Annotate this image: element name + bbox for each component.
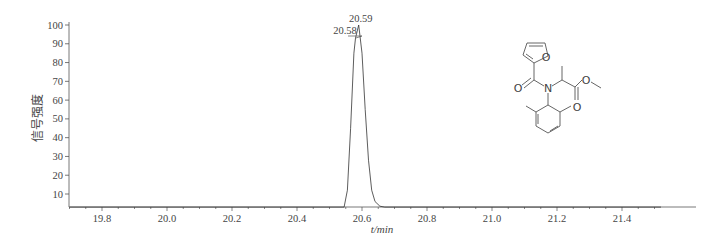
y-tick-label: 60 [53,95,64,106]
x-axis-label: t/min [371,223,394,235]
y-tick-label: 80 [53,57,64,68]
x-tick-label: 21.0 [483,213,501,224]
peak-label-20-59: 20.59 [349,13,373,24]
y-tick-label: 100 [47,20,63,31]
x-tick-label: 21.2 [548,213,566,224]
x-axis-ticks: 19.820.020.220.420.620.821.021.221.4 [70,207,655,224]
axes [69,22,696,207]
y-tick-label: 70 [53,76,64,87]
x-tick-label: 20.2 [223,213,241,224]
y-tick-label: 50 [53,113,64,124]
chemical-structure [522,43,601,133]
y-axis-label: 信号强度 [30,94,45,142]
atom-o-ester: O [582,74,591,87]
atom-o-furan: O [542,51,551,64]
x-tick-label: 20.0 [158,213,176,224]
y-axis-ticks: 102030405060708090100 [47,20,69,200]
atom-n: N [544,82,552,95]
y-tick-label: 10 [53,189,64,200]
chromatogram-trace [70,25,662,207]
y-tick-label: 90 [53,38,64,49]
y-tick-label: 20 [53,170,64,181]
chromatogram-chart: 102030405060708090100 19.820.020.220.420… [0,0,701,242]
atom-o-carbonyl: O [514,82,523,95]
y-tick-label: 40 [53,132,64,143]
atom-o-ester-carbonyl: O [573,101,582,114]
peak-label-20-58: 20.58 [333,25,357,36]
x-tick-label: 20.8 [418,213,436,224]
x-tick-label: 20.6 [353,213,371,224]
peak-annotations: 20.5920.58 [333,13,372,38]
x-tick-label: 20.4 [288,213,307,224]
x-tick-label: 21.4 [613,213,632,224]
y-tick-label: 30 [53,151,64,162]
x-tick-label: 19.8 [93,213,111,224]
